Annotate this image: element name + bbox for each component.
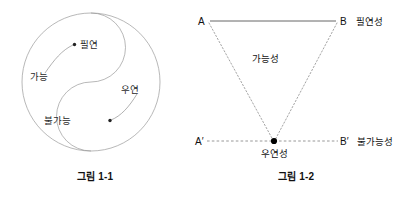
vertex-label-A: A	[198, 16, 205, 27]
label-contingency: 우연성	[261, 148, 288, 159]
vertex-label-B-prime: B′	[340, 136, 349, 147]
label-possibility: 가능성	[252, 53, 279, 64]
yinyang-diagram: 필연 가능 우연 불가능	[0, 0, 190, 165]
label-impossible: 불가능	[44, 115, 71, 126]
apex-vertex-dot	[271, 138, 277, 144]
edge-right-B-apex	[275, 23, 337, 140]
figure-1-1-caption: 그림 1-1	[0, 168, 190, 183]
figure-1-2: A B A′ B′ 필연성 가능성 불가능성 우연성 그림 1-2	[190, 0, 402, 197]
pointer-dot-necessary	[73, 43, 76, 46]
pointer-dot-impossible	[108, 119, 111, 122]
figure-1-1: 필연 가능 우연 불가능 그림 1-1	[0, 0, 190, 197]
figure-sheet: 필연 가능 우연 불가능 그림 1-1 A B A′ B′	[0, 0, 402, 197]
vertex-label-A-prime: A′	[195, 136, 204, 147]
leader-line-chance-to-impossible	[111, 94, 137, 120]
label-impossibility: 불가능성	[357, 136, 393, 147]
label-possible: 가능	[30, 71, 48, 82]
leader-line-possible-to-necessary	[45, 45, 73, 73]
triangle-diagram: A B A′ B′ 필연성 가능성 불가능성 우연성	[190, 0, 402, 165]
s-curve-divider	[57, 13, 126, 151]
edge-left-A-apex	[209, 23, 273, 140]
vertex-label-B: B	[340, 16, 347, 27]
label-necessity: 필연성	[356, 16, 383, 27]
label-necessary: 필연	[80, 39, 98, 50]
figure-1-2-caption: 그림 1-2	[190, 168, 402, 183]
label-chance: 우연	[121, 84, 139, 95]
